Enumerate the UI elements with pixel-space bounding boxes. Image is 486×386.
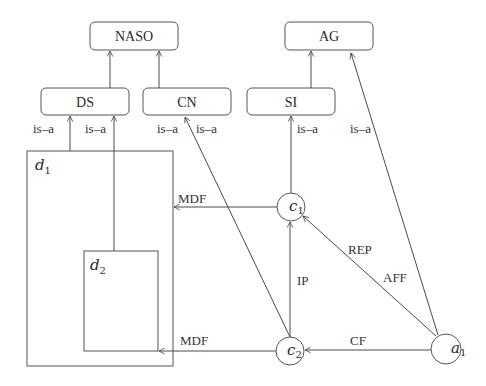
- concept-ds-label: DS: [76, 95, 94, 110]
- a1-is-a-ag-arrow: [351, 53, 438, 335]
- node-c2: c2: [276, 337, 304, 365]
- concept-naso-label: NASO: [115, 29, 153, 44]
- d2-is-a-ds-label: is–a: [85, 121, 106, 136]
- c2-is-a-cn-label: is–a: [157, 121, 178, 136]
- container-d2: d2: [84, 251, 158, 351]
- a1-rep-c1-label: REP: [348, 242, 372, 257]
- c2-ip-c1-label: IP: [297, 273, 309, 288]
- node-a1: a1: [431, 334, 466, 364]
- concept-ds: DS: [41, 88, 129, 115]
- ontology-diagram: NASO AG DS CN SI d1 d2 is–a is–a is–: [0, 0, 486, 386]
- concept-ag-label: AG: [319, 29, 339, 44]
- container-d1-label: d1: [35, 156, 51, 176]
- a1-aff-c1-label: AFF: [383, 270, 407, 285]
- concept-cn-label: CN: [177, 95, 196, 110]
- concept-cn: CN: [143, 88, 231, 115]
- concept-ag: AG: [285, 22, 373, 50]
- node-c1: c1: [277, 193, 305, 221]
- c1-is-a-cn-label: is–a: [196, 121, 217, 136]
- c1-mdf-d1-label: MDF: [178, 191, 206, 206]
- a1-rep-aff-c1-arrow: [303, 216, 436, 336]
- concept-si: SI: [247, 88, 335, 115]
- c2-mdf-d2-label: MDF: [180, 333, 208, 348]
- a1-is-a-ag-label: is–a: [350, 121, 371, 136]
- c1-is-a-si-label: is–a: [297, 121, 318, 136]
- concept-si-label: SI: [285, 95, 298, 110]
- concept-naso: NASO: [90, 22, 178, 50]
- node-a1-label: a1: [451, 339, 466, 358]
- d1-is-a-ds-label: is–a: [33, 121, 54, 136]
- a1-cf-c2-label: CF: [350, 333, 366, 348]
- c2-is-a-cn-arrow: [185, 117, 290, 337]
